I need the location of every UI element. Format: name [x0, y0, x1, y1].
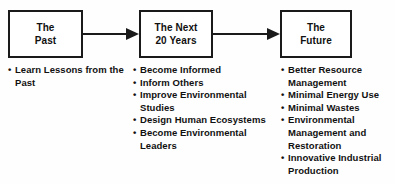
bullet-dot-icon: • [133, 114, 136, 127]
bullet-list-future: •Better Resource Management•Minimal Ener… [281, 64, 393, 177]
bullet-item: •Minimal Wastes [281, 102, 393, 115]
bullet-item-label: Minimal Energy Use [288, 89, 379, 100]
bullet-item-label: Become Informed [140, 64, 221, 75]
node-box-past[interactable]: The Past [8, 10, 83, 58]
bullet-item: •Minimal Energy Use [281, 89, 393, 102]
node-label-next: The Next 20 Years [154, 21, 197, 47]
arrow-shaft [83, 33, 128, 35]
arrow-head [126, 28, 139, 40]
bullet-item: •Environmental Management and Restoratio… [281, 114, 393, 152]
bullet-column-future: •Better Resource Management•Minimal Ener… [281, 64, 393, 177]
node-box-future[interactable]: The Future [280, 10, 352, 58]
bullet-item: •Better Resource Management [281, 64, 393, 89]
bullet-dot-icon: • [133, 127, 136, 140]
bullet-item: •Innovative Industrial Production [281, 152, 393, 177]
bullet-dot-icon: • [133, 64, 136, 77]
bullet-item: •Design Human Ecosystems [133, 114, 278, 127]
bullet-dot-icon: • [133, 89, 136, 102]
bullet-item: •Learn Lessons from the Past [8, 64, 132, 89]
bullet-column-past: •Learn Lessons from the Past [8, 64, 132, 89]
bullet-item: •Become Informed [133, 64, 278, 77]
arrow-past-to-next-icon [83, 28, 139, 40]
bullet-item: •Inform Others [133, 77, 278, 90]
bullet-item-label: Inform Others [140, 77, 203, 88]
bullet-item-label: Minimal Wastes [288, 102, 360, 113]
bullet-dot-icon: • [281, 114, 284, 127]
bullet-dot-icon: • [281, 102, 284, 115]
bullet-list-past: •Learn Lessons from the Past [8, 64, 132, 89]
bullet-item-label: Learn Lessons from the Past [15, 64, 124, 88]
arrow-head [267, 28, 280, 40]
bullet-item: •Improve Environmental Studies [133, 89, 278, 114]
bullet-item-label: Environmental Management and Restoration [288, 114, 366, 150]
bullet-item: •Become Environmental Leaders [133, 127, 278, 152]
bullet-item-label: Better Resource Management [288, 64, 362, 88]
bullet-item-label: Design Human Ecosystems [140, 114, 266, 125]
bullet-item-label: Improve Environmental Studies [140, 89, 247, 113]
bullet-item-label: Become Environmental Leaders [140, 127, 247, 151]
node-label-future: The Future [300, 21, 332, 47]
bullet-dot-icon: • [281, 64, 284, 77]
node-box-next[interactable]: The Next 20 Years [139, 10, 213, 58]
bullet-dot-icon: • [8, 64, 11, 77]
flow-diagram: The Past The Next 20 Years The Future •L… [0, 0, 395, 184]
bullet-dot-icon: • [281, 152, 284, 165]
node-label-past: The Past [35, 21, 57, 47]
arrow-next-to-future-icon [213, 28, 280, 40]
bullet-dot-icon: • [281, 89, 284, 102]
arrow-shaft [213, 33, 269, 35]
bullet-dot-icon: • [133, 77, 136, 90]
bullet-item-label: Innovative Industrial Production [288, 152, 381, 176]
bullet-list-next: •Become Informed•Inform Others•Improve E… [133, 64, 278, 152]
bullet-column-next: •Become Informed•Inform Others•Improve E… [133, 64, 278, 152]
